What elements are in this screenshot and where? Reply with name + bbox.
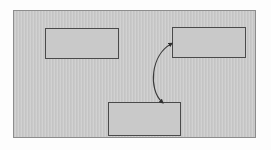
node-box-bottom-center[interactable]: [108, 102, 181, 136]
node-box-top-right[interactable]: [172, 27, 246, 58]
node-box-top-left[interactable]: [45, 28, 119, 59]
diagram-canvas: [0, 0, 271, 150]
connector-curve-box2-box3[interactable]: [153, 44, 171, 102]
node-box-bottom-center-label: [109, 103, 180, 135]
node-box-top-right-label: [173, 28, 245, 57]
diagram-frame: [13, 10, 256, 138]
node-box-top-left-label: [46, 29, 118, 58]
